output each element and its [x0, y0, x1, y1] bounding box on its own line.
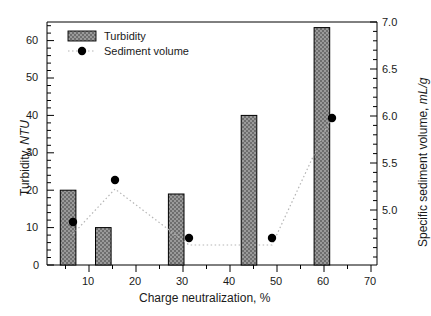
chart-figure: 0 10 20 30 40 50 60 5.0 5.5 6.0 6.5 7.0 … [0, 0, 431, 316]
sediment-volume-markers [69, 114, 336, 242]
bar-1 [60, 190, 76, 265]
ytick-label-10: 10 [26, 221, 38, 233]
marker-5 [328, 114, 336, 122]
y2tick-label-5-5: 5.5 [382, 157, 397, 169]
marker-4 [268, 234, 276, 242]
left-axis-ticks [47, 26, 54, 265]
bar-3 [168, 194, 184, 265]
y2tick-label-7-0: 7.0 [382, 16, 397, 28]
xtick-label-30: 30 [176, 275, 188, 287]
legend-marker-sediment [78, 47, 86, 55]
y2tick-label-6-0: 6.0 [382, 110, 397, 122]
legend-label-sediment-volume: Sediment volume [104, 45, 189, 57]
bottom-axis-ticks [66, 265, 372, 272]
chart-canvas [0, 0, 431, 316]
ytick-label-0: 0 [33, 259, 39, 271]
y-axis-title-units: NTU [18, 120, 32, 145]
y-axis-title: Turbidity, NTU [18, 120, 32, 196]
xtick-label-50: 50 [270, 275, 282, 287]
ytick-label-50: 50 [26, 71, 38, 83]
bar-5 [314, 28, 330, 265]
bar-2 [96, 228, 112, 265]
y2tick-label-6-5: 6.5 [382, 63, 397, 75]
y2-axis-title-plain: Specific sediment volume, [416, 108, 430, 247]
y-axis-title-plain: Turbidity, [18, 148, 32, 196]
xtick-label-70: 70 [364, 275, 376, 287]
right-axis-ticks [370, 22, 377, 257]
legend-label-turbidity: Turbidity [104, 30, 146, 42]
marker-2 [111, 176, 119, 184]
ytick-label-60: 60 [26, 34, 38, 46]
xtick-label-20: 20 [129, 275, 141, 287]
legend-marks [68, 31, 96, 55]
bar-series-turbidity [60, 28, 329, 265]
xtick-label-60: 60 [317, 275, 329, 287]
marker-3 [185, 234, 193, 242]
legend-swatch-turbidity [68, 31, 96, 41]
bar-4 [241, 115, 257, 265]
xtick-label-10: 10 [82, 275, 94, 287]
y2-axis-title-units: mL/g [416, 78, 430, 105]
y2-axis-title: Specific sediment volume, mL/g [416, 78, 430, 247]
xtick-label-40: 40 [223, 275, 235, 287]
y2tick-label-5-0: 5.0 [382, 204, 397, 216]
x-axis-title: Charge neutralization, % [139, 291, 270, 305]
marker-1 [69, 218, 77, 226]
